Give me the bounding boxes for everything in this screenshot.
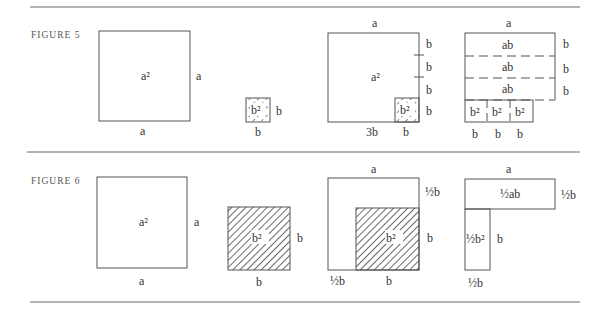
f6-p4-top-area: ½ab xyxy=(500,187,520,201)
f6-p3-bottom-1: ½b xyxy=(330,274,345,288)
f5-p4-right-2: b xyxy=(563,62,569,76)
f5-p4-bottom-2: b xyxy=(495,127,501,141)
f5-p3-bottom-2: b xyxy=(403,125,409,139)
f5-p2-right: b xyxy=(276,104,282,118)
figure-canvas: FIGURE 5 a² a a b² b b b² a² a b b b b 3… xyxy=(0,0,608,310)
f5-p3-right-1: b xyxy=(426,37,432,51)
f5-p1-right: a xyxy=(196,69,202,83)
f6-p4-top-right: ½b xyxy=(561,188,576,202)
f5-p1-bottom: a xyxy=(140,124,146,138)
f5-p2-bottom: b xyxy=(255,125,261,139)
figure-6-caption: FIGURE 6 xyxy=(31,176,80,186)
f5-p4-bottom-3: b xyxy=(517,127,523,141)
f6-p4-top: a xyxy=(506,162,512,176)
f5-p4-small-3: b² xyxy=(515,105,525,119)
f6-p3-inner-area: b² xyxy=(386,231,396,245)
f6-p3-bottom-2: b xyxy=(386,274,392,288)
f6-p2-area: b² xyxy=(252,231,262,245)
f6-p2-bottom: b xyxy=(256,275,262,289)
f5-p4-bottom-1: b xyxy=(472,127,478,141)
f6-p3-top: a xyxy=(371,162,377,176)
f5-p4-small-2: b² xyxy=(492,105,502,119)
f5-p3-top: a xyxy=(372,16,378,30)
f5-p3-right-4: b xyxy=(426,104,432,118)
f6-p1-bottom: a xyxy=(139,274,145,288)
f6-p1-right: a xyxy=(194,215,200,229)
f5-p4-small-1: b² xyxy=(470,105,480,119)
f6-p4-bottom: ½b xyxy=(468,276,483,290)
f5-p3-right-2: b xyxy=(426,60,432,74)
f5-p3-bottom-1: 3b xyxy=(366,125,378,139)
f5-p1-area: a² xyxy=(141,69,150,83)
f5-p4-strip-2: ab xyxy=(502,60,513,74)
f5-p3-inner-area: b² xyxy=(400,103,410,117)
f5-p4-right-3: b xyxy=(563,84,569,98)
f6-p3-right-1: ½b xyxy=(425,185,440,199)
f5-p2-area: b² xyxy=(251,103,261,117)
f5-p4-right-1: b xyxy=(563,37,569,51)
f6-p2-right: b xyxy=(297,231,303,245)
f5-p4-strip-3: ab xyxy=(502,82,513,96)
f6-p4-side-area: ½b² xyxy=(466,232,485,246)
f6-p3-right-2: b xyxy=(427,231,433,245)
f6-p1-area: a² xyxy=(139,215,148,229)
f6-p4-side-right: b xyxy=(497,232,503,246)
f5-p3-right-3: b xyxy=(426,83,432,97)
f5-p4-top: a xyxy=(506,16,512,30)
f5-p4-strip-1: ab xyxy=(502,38,513,52)
f5-p3-area: a² xyxy=(371,70,380,84)
figure-5-caption: FIGURE 5 xyxy=(31,30,80,40)
